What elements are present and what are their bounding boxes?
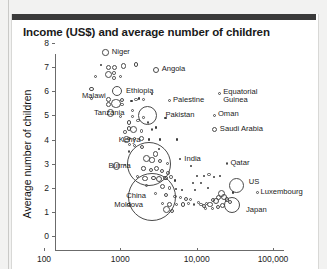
y-tick — [52, 164, 55, 165]
data-point — [140, 129, 143, 132]
data-point — [121, 63, 127, 69]
data-point — [181, 202, 185, 206]
data-point-label: Oman — [218, 110, 239, 118]
data-point — [120, 98, 124, 102]
data-point — [207, 173, 210, 176]
y-axis-line — [55, 54, 56, 251]
data-point-oman — [213, 114, 216, 117]
y-tick — [52, 212, 55, 213]
data-point-label: Luxembourg — [261, 188, 303, 196]
data-point — [120, 103, 124, 107]
x-tick-label: 1000 — [95, 254, 145, 264]
data-point-label: Saudi Arabia — [220, 125, 263, 133]
y-tick-label: 7 — [35, 62, 49, 72]
x-axis-line — [55, 250, 284, 251]
data-point-label: Kenya — [119, 136, 141, 144]
data-point — [138, 97, 140, 99]
y-tick — [52, 67, 55, 68]
data-point — [219, 175, 221, 177]
y-tick-label: 5 — [35, 110, 49, 120]
y-tick-label: 2 — [35, 183, 49, 193]
data-point-label: Ethiopia — [126, 87, 153, 95]
data-point — [155, 126, 157, 128]
chart-title: Income (US$) and average number of child… — [23, 26, 270, 38]
data-point-label: Moldova — [114, 201, 143, 209]
x-tick — [197, 248, 198, 251]
data-point-label: EquatorialGuinea — [223, 88, 257, 105]
data-point — [130, 100, 132, 102]
data-point-niger — [102, 49, 108, 55]
data-point — [159, 138, 161, 140]
data-point-label: Malawi — [82, 92, 106, 100]
x-tick-label: 100 — [19, 254, 69, 264]
x-tick — [44, 248, 45, 251]
y-tick — [52, 236, 55, 237]
page-background: Income (US$) and average number of child… — [0, 0, 327, 269]
y-tick-label: 1 — [35, 207, 49, 217]
data-point — [179, 158, 181, 160]
data-point-luxembourg — [256, 191, 259, 194]
data-point — [187, 202, 190, 205]
data-point — [123, 130, 127, 134]
data-point-label: Niger — [112, 48, 130, 56]
y-tick — [52, 188, 55, 189]
data-point — [105, 71, 112, 78]
data-point — [169, 175, 173, 179]
y-tick — [52, 43, 55, 44]
x-tick-label: 100,000 — [248, 254, 298, 264]
data-point — [106, 102, 111, 107]
data-point-label: India — [184, 155, 200, 163]
data-point — [112, 71, 116, 75]
data-point-label: Angola — [162, 65, 186, 73]
data-point — [131, 115, 134, 118]
chart-card — [11, 14, 319, 269]
data-point-angola — [153, 67, 159, 73]
data-point — [174, 179, 176, 181]
data-point — [184, 197, 188, 201]
card-top-bar — [12, 14, 316, 20]
data-point — [216, 205, 220, 209]
data-point-label: US — [249, 178, 260, 186]
data-point-us — [229, 178, 244, 193]
data-point — [204, 207, 207, 210]
x-tick — [120, 248, 121, 251]
data-point — [207, 187, 209, 189]
data-point — [112, 65, 117, 70]
y-tick-label: 6 — [35, 86, 49, 96]
y-tick-label: 4 — [35, 135, 49, 145]
data-point-label: Palestine — [173, 96, 204, 104]
data-point-label: Tanzania — [94, 109, 124, 117]
data-point-label: Burma — [108, 162, 130, 170]
data-point — [106, 65, 111, 70]
y-tick — [52, 91, 55, 92]
x-tick-label: 10,000 — [172, 254, 222, 264]
data-point-label: Pakistan — [165, 111, 194, 119]
data-point-label: Japan — [246, 206, 267, 214]
y-tick-label: 3 — [35, 159, 49, 169]
x-tick — [273, 248, 274, 251]
data-point — [189, 198, 192, 201]
data-point — [196, 175, 198, 177]
data-point — [203, 175, 205, 177]
y-axis-label: Average number of children — [21, 69, 33, 239]
data-point-label: Qatar — [230, 159, 249, 167]
page-gutter-line — [8, 0, 9, 269]
data-point — [112, 76, 116, 80]
data-point — [211, 207, 214, 210]
y-tick — [52, 140, 55, 141]
data-point — [176, 138, 178, 140]
data-point-japan — [224, 197, 240, 213]
data-point — [142, 98, 145, 101]
y-tick — [52, 115, 55, 116]
y-tick-label: 0 — [35, 231, 49, 241]
y-tick-label: 8 — [35, 38, 49, 48]
